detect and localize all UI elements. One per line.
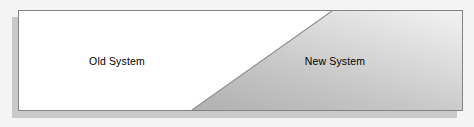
new-system-label: New System (237, 56, 433, 67)
old-system-label: Old System (19, 56, 215, 67)
diagram-panel: Old System New System (18, 10, 463, 111)
transition-diagram: Old System New System (0, 0, 474, 127)
